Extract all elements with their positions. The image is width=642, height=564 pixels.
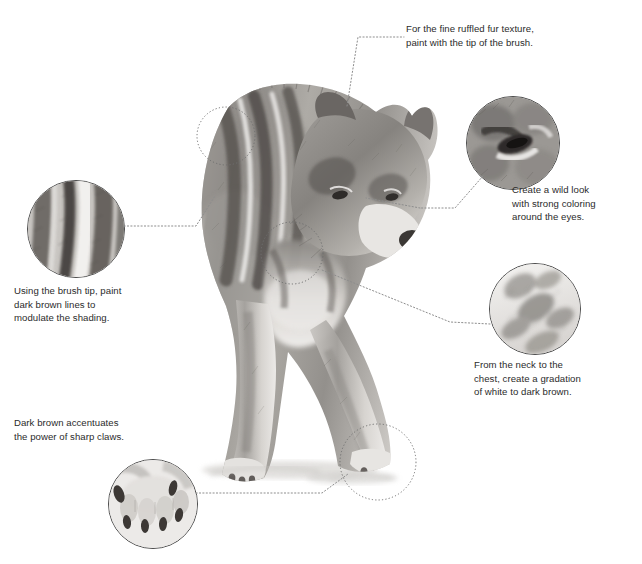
annotation-shading: Using the brush tip, paint dark brown li… [14,284,164,325]
leader-eye-target [366,198,420,208]
leader-neck-inset [322,270,490,324]
leader-eye-inset [420,176,483,208]
illustration-stage: For the fine ruffled fur texture, paint … [0,0,642,564]
leader-paw-inset [196,474,348,493]
target-ring-neck [261,222,323,284]
leader-back-inset [124,196,215,226]
target-ring-back [197,107,255,165]
annotation-fur-texture: For the fine ruffled fur texture, paint … [406,22,606,49]
annotation-claws: Dark brown accentuates the power of shar… [14,416,174,443]
annotation-eyes: Create a wild look with strong coloring … [512,183,636,224]
annotation-neck-gradation: From the neck to the chest, create a gra… [474,358,624,399]
annotation-overlay [0,0,642,564]
target-ring-paw [340,424,416,500]
leader-fur-texture [347,37,404,106]
